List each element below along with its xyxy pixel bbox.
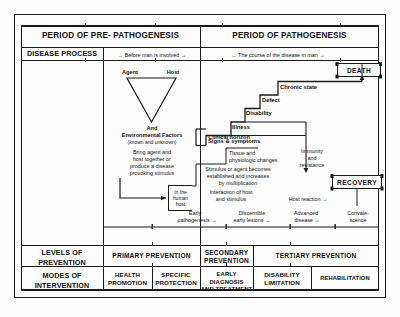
triad-action-line-2: host together or xyxy=(106,156,198,162)
level-tertiary-prevention: TERTIARY PREVENTION xyxy=(253,252,379,261)
arrow-right-icon: → xyxy=(319,52,324,58)
step-label-chronic-state: Chronic state xyxy=(280,84,350,90)
tick-mark xyxy=(290,263,291,267)
recovery-box: RECOVERY xyxy=(332,175,382,189)
body-left-column-divider xyxy=(103,60,104,245)
disease-process-label-divider xyxy=(103,47,104,60)
mode-specific-protection: SPECIFIC PROTECTION xyxy=(152,271,200,287)
triad-action-line-4: provoking stimulus xyxy=(106,170,198,176)
immunity-line-3: resistance xyxy=(290,162,334,168)
tick-mark xyxy=(85,58,86,62)
stage-advanced-line-2: disease → xyxy=(280,217,334,223)
arrow-right-icon: → xyxy=(231,52,236,58)
modes-of-intervention-label: MODES OF INTERVENTION xyxy=(21,271,103,290)
tick-mark xyxy=(226,242,227,246)
mode-rehabilitation: REHABILITATION xyxy=(311,275,379,283)
immunity-line-1: Immunity xyxy=(290,148,334,154)
stimulus-line-2: established and increases xyxy=(196,173,280,179)
tick-mark xyxy=(152,263,153,267)
mode-health-promotion: HEALTH PROMOTION xyxy=(103,271,152,287)
and-label: And xyxy=(117,125,187,131)
step-label-signs-symptoms: Signs & symptoms xyxy=(208,138,284,144)
arrow-right-icon: → xyxy=(322,196,327,202)
levels-of-prevention-label: LEVELS OF PREVENTION xyxy=(21,248,103,267)
level-primary-prevention: PRIMARY PREVENTION xyxy=(103,252,200,261)
triad-action-line-1: Bring agent and xyxy=(106,149,198,155)
human-host-line-3: host xyxy=(176,201,185,207)
arrow-right-icon: → xyxy=(314,217,319,223)
period-pathogenesis-label: PERIOD OF PATHOGENESIS xyxy=(200,31,379,40)
period-pre-pathogenesis-label: PERIOD OF PRE- PATHOGENESIS xyxy=(21,31,200,40)
human-host-box: In the human host xyxy=(168,185,192,211)
agent-label: Agent xyxy=(112,69,148,75)
tick-mark xyxy=(290,242,291,246)
tick-mark xyxy=(222,23,223,27)
disease-process-path-text: → The course of the disease in man → xyxy=(203,52,353,58)
host-label: Host xyxy=(155,69,191,75)
mode-disability-limitation: DISABILITY LIMITATION xyxy=(253,271,311,287)
tissue-line-1: Tissue and xyxy=(229,150,285,156)
tick-mark xyxy=(222,58,223,62)
step-label-disability: Disability xyxy=(246,110,306,116)
diagram-canvas: PERIOD OF PRE- PATHOGENESIS PERIOD OF PA… xyxy=(0,0,400,317)
arrow-right-icon: → xyxy=(265,217,270,223)
stage-early-pathogenesis-line-2: pathogenesis → xyxy=(168,217,226,223)
triad-action-line-3: produce a disease xyxy=(106,163,198,169)
stimulus-line-3: by multiplication xyxy=(196,180,280,186)
death-box: DEATH xyxy=(337,63,381,77)
stimulus-line-1: Stimulus or agent becomes xyxy=(196,166,280,172)
host-reaction-label: Host reaction → xyxy=(276,196,340,202)
stage-discernible-line-1: Discernible xyxy=(228,210,276,216)
stage-text: early lesions xyxy=(234,217,264,223)
tick-mark xyxy=(85,23,86,27)
arrow-right-icon: → xyxy=(118,52,123,58)
mode-early-diagnosis-treatment: EARLY DIAGNOSIS AND TREATMENT xyxy=(200,271,253,294)
tick-mark xyxy=(155,58,156,62)
environmental-factors-label: Environmental Factors xyxy=(104,132,200,138)
stage-text: pathogenesis xyxy=(178,217,210,223)
stage-early-pathogenesis-line-1: Early xyxy=(175,210,215,216)
known-unknown-label: (known and unknown) xyxy=(104,140,200,146)
stage-text: disease xyxy=(294,217,313,223)
pre-pathogenesis-desc: Before man is involved xyxy=(125,52,180,58)
arrow-right-icon: → xyxy=(181,52,186,58)
stage-discernible-line-2: early lesions → xyxy=(222,217,282,223)
tick-mark xyxy=(340,23,341,27)
disease-process-period-divider xyxy=(200,47,201,60)
interaction-line-1: Interaction of host xyxy=(196,189,266,195)
step-label-defect: Defect xyxy=(262,97,322,103)
tick-mark xyxy=(152,242,153,246)
stage-advanced-line-1: Advanced xyxy=(284,210,328,216)
arrow-right-icon: → xyxy=(211,217,216,223)
tick-mark xyxy=(226,263,227,267)
disease-process-label: DISEASE PROCESS xyxy=(21,50,103,58)
tissue-line-2: physiologic changes xyxy=(229,157,291,163)
tick-mark xyxy=(340,58,341,62)
stage-convalescence-line-1: Convale- xyxy=(336,210,380,216)
host-reaction-text: Host reaction xyxy=(289,196,321,202)
immunity-line-2: and xyxy=(290,155,334,161)
stage-convalescence-line-2: scence xyxy=(336,217,380,223)
step-label-illness: Illness xyxy=(232,124,292,130)
tick-mark xyxy=(155,23,156,27)
disease-process-pre-text: → Before man is involved → xyxy=(106,52,198,58)
interaction-line-2: and stimulus xyxy=(196,196,266,202)
pathogenesis-desc: The course of the disease in man xyxy=(238,52,318,58)
